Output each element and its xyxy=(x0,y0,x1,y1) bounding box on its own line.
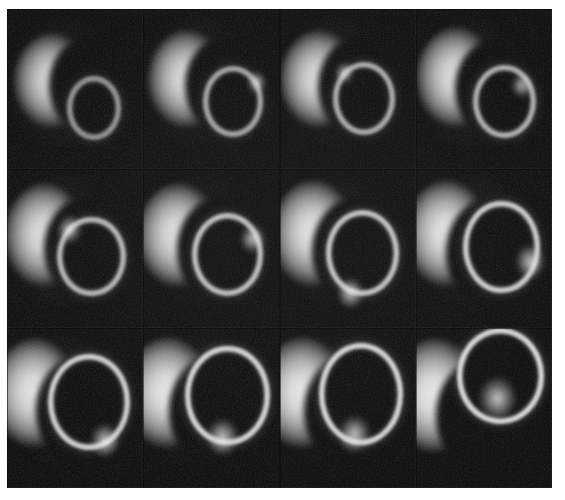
image-frame xyxy=(416,169,552,329)
frame-inner xyxy=(7,9,143,169)
aurora-bright-spot xyxy=(511,73,533,99)
polar-cap-dark-core xyxy=(74,83,115,133)
frame-inner xyxy=(143,169,279,329)
image-frame xyxy=(416,328,552,488)
aurora-bright-spot xyxy=(247,71,266,93)
image-frame xyxy=(280,9,416,169)
aurora-bright-spot xyxy=(515,244,545,279)
frame-inner xyxy=(280,328,416,488)
frame-inner xyxy=(143,328,279,488)
aurora-bright-spot xyxy=(337,277,364,309)
frame-inner xyxy=(280,9,416,169)
aurora-bright-spot xyxy=(90,423,120,458)
image-frame xyxy=(143,9,279,169)
frame-grid xyxy=(7,9,552,488)
aurora-bright-spot xyxy=(206,418,239,456)
frame-inner xyxy=(7,328,143,488)
frame-inner xyxy=(7,169,143,329)
image-frame xyxy=(143,169,279,329)
aurora-bright-spot xyxy=(338,415,371,453)
figure-root xyxy=(0,0,565,500)
image-frame xyxy=(280,328,416,488)
auroral-oval xyxy=(67,76,122,140)
image-frame xyxy=(7,169,143,329)
image-frame xyxy=(7,328,143,488)
frame-inner xyxy=(143,9,279,169)
image-frame xyxy=(280,169,416,329)
montage-plate xyxy=(7,9,552,488)
frame-inner xyxy=(280,169,416,329)
image-frame xyxy=(7,9,143,169)
frame-inner xyxy=(416,169,552,329)
aurora-bright-spot xyxy=(57,215,82,244)
auroral-oval xyxy=(326,210,400,296)
frame-inner xyxy=(416,328,552,488)
image-frame xyxy=(143,328,279,488)
aurora-bright-spot xyxy=(478,376,516,421)
image-frame xyxy=(416,9,552,169)
frame-inner xyxy=(416,9,552,169)
aurora-bright-spot xyxy=(240,225,265,254)
